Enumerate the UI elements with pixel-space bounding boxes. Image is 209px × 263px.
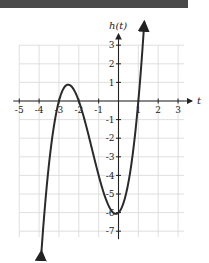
y-tick-label: -4: [106, 171, 115, 181]
y-tick-label: 3: [109, 40, 115, 50]
y-tick-label: 1: [109, 78, 115, 88]
y-tick-label: -7: [106, 226, 115, 236]
function-graph: -5-4-3-2-1123321-1-2-3-4-5-6-7 t h(t): [0, 0, 209, 263]
y-tick-label: -2: [106, 133, 115, 143]
function-curve: [41, 22, 144, 251]
x-tick-label: -4: [35, 105, 44, 115]
x-axis-label: t: [197, 95, 202, 106]
x-tick-label: 3: [175, 105, 181, 115]
x-tick-label: -1: [94, 105, 103, 115]
y-axis-label: h(t): [109, 20, 127, 31]
x-tick-label: 2: [155, 105, 161, 115]
y-tick-label: -5: [106, 189, 115, 199]
y-tick-label: -1: [106, 115, 115, 125]
axes: [13, 34, 192, 239]
x-tick-label: -5: [15, 105, 24, 115]
y-tick-label: 2: [109, 59, 115, 69]
y-tick-label: -3: [106, 152, 115, 162]
